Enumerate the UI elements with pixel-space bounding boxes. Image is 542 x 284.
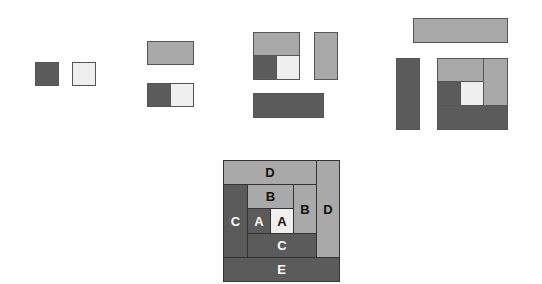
step2-rect-mid: [147, 41, 194, 65]
step4-mid-dark: [437, 81, 461, 106]
step4-square-combined: [437, 58, 508, 130]
block-e-bottom: E: [223, 257, 340, 282]
step4-bottom-dark: [437, 105, 508, 130]
step4-mid-light: [460, 81, 484, 106]
step4-right-mid: [483, 58, 508, 106]
step2-half-dark: [147, 83, 171, 107]
final-figure: D D C B B A A C E: [223, 160, 340, 282]
block-d-top: D: [223, 160, 317, 185]
step3-bottom-light: [276, 55, 300, 80]
block-c-bottom: C: [247, 233, 317, 258]
step4-tall-dark: [396, 58, 420, 130]
step3-bottom-dark: [253, 55, 277, 80]
step2-half-light: [170, 83, 194, 107]
step3-square-combined: [253, 32, 300, 80]
step3-top-mid: [253, 32, 300, 56]
block-a-dark: A: [247, 208, 271, 234]
step1-square-dark: [35, 62, 59, 86]
block-b-top: B: [247, 184, 294, 209]
step2-rect-combined: [147, 83, 194, 107]
step4-top-mid: [437, 58, 484, 82]
block-a-light: A: [270, 208, 294, 234]
block-d-right: D: [316, 160, 340, 258]
step1-square-light: [72, 62, 96, 86]
step4-wide-mid: [413, 18, 508, 43]
step3-wide-dark: [253, 93, 324, 118]
block-c-left: C: [223, 184, 248, 258]
step3-tall-mid: [314, 32, 338, 80]
block-b-right: B: [293, 184, 317, 234]
